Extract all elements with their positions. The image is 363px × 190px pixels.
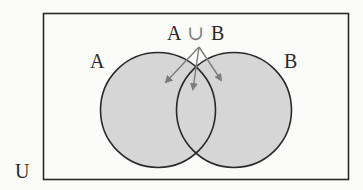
venn-diagram: A B U A ∪ B (0, 0, 363, 190)
union-operator: ∪ (187, 22, 204, 44)
union-label: A ∪ B (167, 22, 224, 44)
union-label-right: B (211, 22, 224, 44)
set-b-label: B (284, 50, 297, 72)
union-label-left: A (167, 22, 182, 44)
set-a-label: A (90, 50, 105, 72)
universe-label: U (15, 160, 30, 182)
